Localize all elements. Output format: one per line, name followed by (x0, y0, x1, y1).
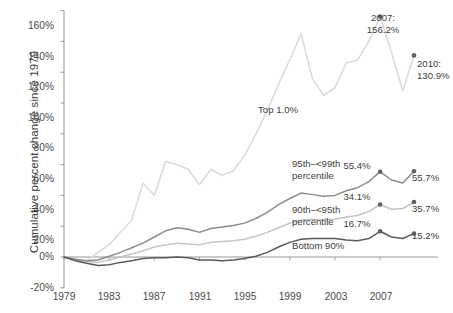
endpoint-label-90th-95th: 35.7% (412, 203, 453, 215)
callout-top1pct-2007: 2007: 156.2% (358, 12, 408, 35)
series-label-95th-99th: 95th–<99th percentile (292, 158, 340, 181)
peak-label-95th-99th: 55.4% (337, 160, 377, 172)
x-tick-label: 1995 (222, 291, 268, 302)
series-label-top-1pct: Top 1.0% (258, 104, 298, 116)
y-tick-label: 20% (10, 234, 54, 245)
peak-label-90th-95th: 34.1% (337, 191, 377, 203)
y-tick-label: 160% (10, 20, 54, 31)
y-tick-label: 0% (10, 251, 54, 262)
endpoint-label-95th-99th: 55.7% (412, 172, 453, 184)
x-tick-label: 1991 (177, 291, 223, 302)
x-tick-label: 1999 (267, 291, 313, 302)
y-tick-label: 60% (10, 173, 54, 184)
y-tick-label: 80% (10, 142, 54, 153)
endpoint-label-bottom-90: 15.2% (412, 230, 453, 242)
x-tick-label: 1979 (41, 291, 87, 302)
x-tick-label: 2007 (358, 291, 404, 302)
series-label-bottom-90: Bottom 90% (292, 240, 344, 252)
x-tick-label: 2003 (313, 291, 359, 302)
series-label-90th-95th: 90th–<95th percentile (292, 204, 340, 227)
chart-container: Cumulative percent change since 1979 160… (0, 0, 453, 313)
peak-label-bottom-90: 16.7% (337, 218, 377, 230)
y-tick-label: 140% (10, 51, 54, 62)
y-tick-label: 40% (10, 204, 54, 215)
x-tick-label: 1987 (131, 291, 177, 302)
line-chart-plot (0, 0, 453, 313)
y-tick-label: 100% (10, 112, 54, 123)
y-tick-label: 120% (10, 81, 54, 92)
callout-top1pct-2010: 2010: 130.9% (417, 58, 453, 81)
x-tick-label: 1983 (86, 291, 132, 302)
